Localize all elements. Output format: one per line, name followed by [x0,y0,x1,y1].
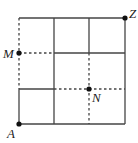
dashed-lines [19,18,125,124]
label-a: A [6,126,15,141]
label-m: M [2,46,15,61]
solid-lines [19,18,125,124]
label-z: Z [129,6,137,21]
point-m [16,50,21,55]
points [16,15,127,126]
grid-diagram: A M N Z [0,0,138,143]
point-n [86,86,91,91]
label-n: N [91,90,102,105]
point-a [16,121,21,126]
point-z [122,15,127,20]
